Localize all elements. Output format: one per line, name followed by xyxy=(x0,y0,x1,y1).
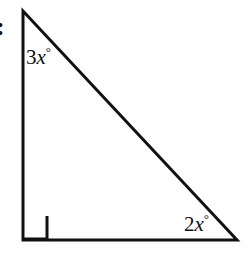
degree-symbol-apex: ° xyxy=(46,44,51,59)
angle-coefficient-apex: 3 xyxy=(26,45,37,69)
degree-symbol-bottom-right: ° xyxy=(204,211,209,226)
angle-coefficient-bottom-right: 2 xyxy=(184,212,195,236)
right-triangle-outline xyxy=(23,11,237,240)
angle-variable-bottom-right: x xyxy=(195,212,204,236)
angle-variable-apex: x xyxy=(37,45,46,69)
right-angle-marker-icon xyxy=(23,216,47,239)
triangle-figure xyxy=(0,0,249,255)
angle-label-apex: 3x° xyxy=(26,47,51,68)
angle-label-bottom-right: 2x° xyxy=(184,214,209,235)
figure-container: : 3x° 2x° xyxy=(0,0,249,255)
